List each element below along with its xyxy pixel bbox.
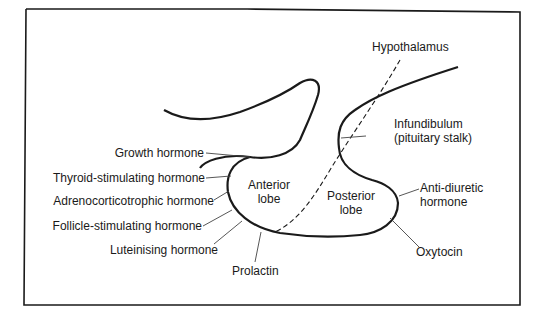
label-adrenocorticotrophic-hormone: Adrenocorticotrophic hormone bbox=[40, 194, 214, 208]
label-growth-hormone: Growth hormone bbox=[100, 146, 204, 160]
label-hypothalamus: Hypothalamus bbox=[372, 40, 449, 54]
label-luteinising-hormone: Luteinising hormone bbox=[100, 243, 218, 257]
label-anterior-lobe-sub: lobe bbox=[244, 192, 294, 206]
label-infundibulum: Infundibulum bbox=[394, 117, 463, 131]
label-prolactin: Prolactin bbox=[232, 264, 279, 278]
label-anti-diuretic-hormone: Anti-diuretic bbox=[420, 181, 483, 195]
label-infundibulum-sub: (pituitary stalk) bbox=[394, 131, 472, 145]
label-follicle-stimulating-hormone: Follicle-stimulating hormone bbox=[40, 219, 202, 233]
label-posterior-lobe: Posterior bbox=[320, 189, 382, 203]
label-anterior-lobe: Anterior bbox=[244, 178, 294, 192]
label-oxytocin: Oxytocin bbox=[416, 245, 463, 259]
label-anti-diuretic-hormone-sub: hormone bbox=[420, 195, 467, 209]
label-thyroid-stimulating-hormone: Thyroid-stimulating hormone bbox=[40, 171, 205, 185]
label-posterior-lobe-sub: lobe bbox=[320, 203, 382, 217]
